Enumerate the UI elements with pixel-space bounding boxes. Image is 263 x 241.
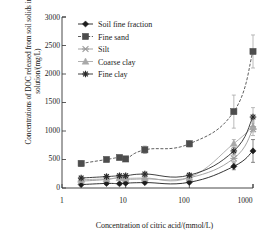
marker-square <box>82 33 88 39</box>
marker-square <box>142 147 148 153</box>
series-line <box>81 51 253 163</box>
legend-label: Silt <box>98 45 110 54</box>
marker-square <box>123 156 129 162</box>
legend-label: Coarse clay <box>98 58 136 67</box>
marker-square <box>78 160 84 166</box>
marker-diamond <box>82 21 88 27</box>
plot-canvas: Soil fine fractionFine sandSiltCoarse cl… <box>0 0 263 241</box>
series-line <box>81 117 253 178</box>
marker-square <box>116 154 122 160</box>
marker-square <box>250 48 256 54</box>
marker-square <box>103 156 109 162</box>
marker-triangle <box>230 140 237 146</box>
legend-label: Fine sand <box>98 33 129 42</box>
marker-diamond <box>116 181 122 187</box>
marker-diamond <box>231 163 237 169</box>
marker-square <box>231 109 237 115</box>
marker-square <box>186 141 192 147</box>
legend-label: Fine clay <box>98 70 128 79</box>
chart-figure: Concentrations of DOC released from soil… <box>0 0 263 241</box>
legend-label: Soil fine fraction <box>98 20 152 29</box>
series-line <box>81 126 253 180</box>
